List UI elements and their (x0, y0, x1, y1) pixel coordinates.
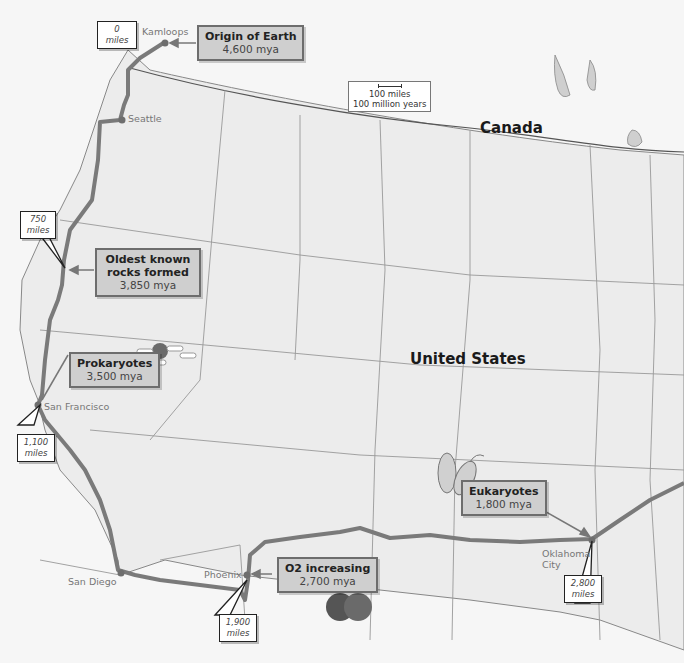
oxygen-molecule-illustration (326, 593, 372, 621)
mile-marker-1900: 1,900 miles (219, 614, 257, 642)
mile-unit: miles (572, 589, 595, 599)
mile-unit: miles (27, 225, 50, 235)
event-title: Origin of Earth (205, 30, 296, 43)
lakes (554, 55, 642, 147)
event-value: 1,800 mya (469, 498, 539, 511)
mile-marker-0: 0 miles (97, 21, 137, 49)
mile-number: 0 (114, 24, 119, 34)
event-origin-of-earth: Origin of Earth 4,600 mya (197, 25, 304, 61)
mile-unit: miles (25, 448, 48, 458)
event-value: 3,500 mya (77, 370, 152, 383)
mile-number: 750 (30, 214, 46, 224)
city-kamloops: Kamloops (142, 26, 188, 37)
city-phoenix: Phoenix (204, 569, 242, 580)
event-title: O2 increasing (285, 562, 370, 575)
event-oldest-rocks: Oldest known rocks formed 3,850 mya (95, 248, 201, 297)
mile-number: 1,100 (24, 437, 48, 447)
event-title: Oldest known rocks formed (103, 253, 193, 279)
mile-unit: miles (106, 35, 129, 45)
map-scale: 100 miles 100 million years (348, 81, 431, 112)
country-label-canada: Canada (480, 119, 543, 137)
city-san-diego: San Diego (68, 576, 117, 587)
event-eukaryotes: Eukaryotes 1,800 mya (461, 480, 547, 516)
country-label-united-states: United States (410, 350, 526, 368)
event-title: Prokaryotes (77, 357, 152, 370)
city-seattle: Seattle (128, 113, 162, 124)
mile-unit: miles (227, 628, 250, 638)
event-value: 4,600 mya (205, 43, 296, 56)
event-value: 3,850 mya (103, 279, 193, 292)
event-value: 2,700 mya (285, 575, 370, 588)
scale-line1: 100 miles (369, 89, 411, 99)
scale-line2: 100 million years (353, 99, 426, 109)
mile-marker-750: 750 miles (20, 211, 56, 239)
event-title: Eukaryotes (469, 485, 539, 498)
city-oklahoma-city: Oklahoma City (542, 548, 602, 570)
mile-marker-1100: 1,100 miles (17, 434, 55, 462)
mile-marker-2800: 2,800 miles (564, 575, 602, 603)
mile-number: 2,800 (571, 578, 595, 588)
event-prokaryotes: Prokaryotes 3,500 mya (69, 352, 160, 388)
scale-bar (378, 84, 402, 88)
mile-number: 1,900 (226, 617, 250, 627)
city-san-francisco: San Francisco (44, 401, 109, 412)
event-o2-increasing: O2 increasing 2,700 mya (277, 557, 378, 593)
